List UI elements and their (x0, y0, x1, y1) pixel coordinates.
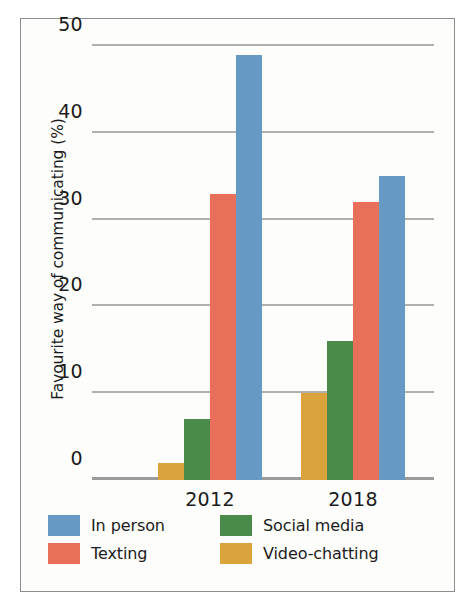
legend-label: In person (91, 516, 165, 535)
legend-swatch-icon (220, 543, 252, 564)
bar-group: 2012 (158, 46, 262, 480)
chart-legend: In personSocial mediaTextingVideo-chatti… (48, 515, 428, 564)
x-axis-tick-label: 2018 (328, 488, 378, 510)
y-axis-tick-label: 0 (71, 447, 83, 469)
bar[interactable] (301, 393, 327, 480)
y-axis-tick-label: 10 (58, 360, 83, 382)
legend-label: Texting (91, 544, 147, 563)
bar[interactable] (353, 202, 379, 480)
bar[interactable] (184, 419, 210, 480)
y-axis-tick-label: 50 (58, 13, 83, 35)
legend-item[interactable]: Texting (48, 543, 220, 564)
legend-label: Video-chatting (263, 544, 379, 563)
legend-swatch-icon (220, 515, 252, 536)
legend-swatch-icon (48, 543, 80, 564)
bar[interactable] (210, 194, 236, 480)
y-axis-tick-label: 40 (58, 100, 83, 122)
legend-item[interactable]: In person (48, 515, 220, 536)
y-axis-tick-label: 30 (58, 187, 83, 209)
bar[interactable] (236, 55, 262, 480)
x-axis-tick-label: 2012 (185, 488, 235, 510)
bar[interactable] (327, 341, 353, 480)
bar[interactable] (379, 176, 405, 480)
bar[interactable] (158, 463, 184, 480)
chart-figure: Favourite way of communicating (%) 01020… (20, 18, 455, 592)
legend-item[interactable]: Video-chatting (220, 543, 425, 564)
y-axis-tick-label: 20 (58, 273, 83, 295)
legend-swatch-icon (48, 515, 80, 536)
bar-group: 2018 (301, 46, 405, 480)
plot-area: 01020304050 20122018 (92, 46, 434, 480)
legend-item[interactable]: Social media (220, 515, 425, 536)
legend-label: Social media (263, 516, 364, 535)
